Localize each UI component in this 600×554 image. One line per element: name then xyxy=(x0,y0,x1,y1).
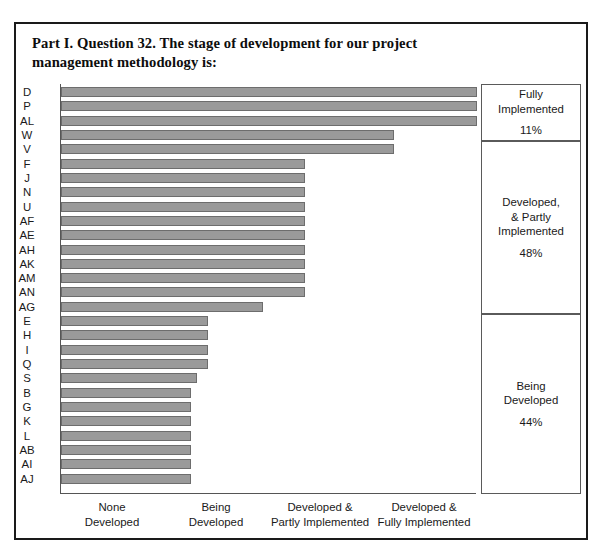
category-label-s: S xyxy=(0,372,54,384)
category-label-l: L xyxy=(0,430,54,442)
category-label-ah: AH xyxy=(0,244,54,256)
bar-d xyxy=(61,87,477,97)
legend-box-1: Fully Implemented11% xyxy=(481,84,581,141)
bar-fill xyxy=(61,87,477,97)
category-label-ab: AB xyxy=(0,444,54,456)
bar-l xyxy=(61,431,191,441)
bar-fill xyxy=(61,230,305,240)
bar-e xyxy=(61,316,208,326)
bar-ah xyxy=(61,245,305,255)
bar-am xyxy=(61,273,305,283)
legend-box-2: Developed, & Partly Implemented48% xyxy=(481,141,581,314)
category-label-an: AN xyxy=(0,286,54,298)
category-label-b: B xyxy=(0,387,54,399)
category-label-h: H xyxy=(0,329,54,341)
bar-al xyxy=(61,116,477,126)
bar-fill xyxy=(61,273,305,283)
category-label-i: I xyxy=(0,344,54,356)
bar-fill xyxy=(61,187,305,197)
bar-p xyxy=(61,101,477,111)
bar-fill xyxy=(61,459,191,469)
bar-g xyxy=(61,402,191,412)
bar-fill xyxy=(61,388,191,398)
bar-aj xyxy=(61,474,191,484)
bar-fill xyxy=(61,359,208,369)
category-label-u: U xyxy=(0,201,54,213)
category-label-ae: AE xyxy=(0,229,54,241)
category-label-ag: AG xyxy=(0,301,54,313)
legend-label: Fully Implemented xyxy=(498,87,564,116)
bar-fill xyxy=(61,173,305,183)
category-label-w: W xyxy=(0,129,54,141)
bar-n xyxy=(61,187,305,197)
bar-fill xyxy=(61,345,208,355)
bar-fill xyxy=(61,330,208,340)
bar-fill xyxy=(61,287,305,297)
category-label-v: V xyxy=(0,143,54,155)
bar-fill xyxy=(61,144,394,154)
legend-percent: 48% xyxy=(520,246,543,261)
category-label-af: AF xyxy=(0,215,54,227)
x-axis-tick-labels: None DevelopedBeing DevelopedDeveloped &… xyxy=(60,500,476,544)
legend-percent: 11% xyxy=(520,123,542,138)
category-label-j: J xyxy=(0,172,54,184)
bar-w xyxy=(61,130,394,140)
bar-ab xyxy=(61,445,191,455)
bar-fill xyxy=(61,402,191,412)
bar-fill xyxy=(61,416,191,426)
bar-j xyxy=(61,173,305,183)
category-label-g: G xyxy=(0,401,54,413)
bar-ai xyxy=(61,459,191,469)
category-label-am: AM xyxy=(0,272,54,284)
bar-fill xyxy=(61,116,477,126)
bar-fill xyxy=(61,259,305,269)
bar-ag xyxy=(61,302,263,312)
category-label-k: K xyxy=(0,415,54,427)
legend-label: Being Developed xyxy=(504,379,558,408)
legend-label: Developed, & Partly Implemented xyxy=(498,195,564,239)
bar-fill xyxy=(61,474,191,484)
bar-v xyxy=(61,144,394,154)
bar-fill xyxy=(61,373,197,383)
bar-ak xyxy=(61,259,305,269)
bar-k xyxy=(61,416,191,426)
bar-fill xyxy=(61,216,305,226)
bar-fill xyxy=(61,316,208,326)
category-label-f: F xyxy=(0,158,54,170)
bar-b xyxy=(61,388,191,398)
category-label-al: AL xyxy=(0,115,54,127)
bar-fill xyxy=(61,101,477,111)
page-title: Part I. Question 32. The stage of develo… xyxy=(32,34,502,71)
bar-fill xyxy=(61,202,305,212)
category-label-q: Q xyxy=(0,358,54,370)
bar-fill xyxy=(61,431,191,441)
legend-percent: 44% xyxy=(520,415,543,430)
bar-fill xyxy=(61,445,191,455)
legend-box-3: Being Developed44% xyxy=(481,314,581,494)
bar-f xyxy=(61,159,305,169)
bar-fill xyxy=(61,302,263,312)
category-label-ai: AI xyxy=(0,458,54,470)
x-tick-label-4: Developed & Fully Implemented xyxy=(344,500,504,529)
bar-ae xyxy=(61,230,305,240)
category-label-p: P xyxy=(0,100,54,112)
category-label-d: D xyxy=(0,86,54,98)
bar-h xyxy=(61,330,208,340)
bar-i xyxy=(61,345,208,355)
category-label-e: E xyxy=(0,315,54,327)
category-label-aj: AJ xyxy=(0,473,54,485)
bar-u xyxy=(61,202,305,212)
legend-panel: Fully Implemented11%Developed, & Partly … xyxy=(481,84,581,494)
bar-q xyxy=(61,359,208,369)
category-axis-labels: DPALWVFJNUAFAEAHAKAMANAGEHIQSBGKLABAIAJ xyxy=(0,84,54,494)
bar-fill xyxy=(61,130,394,140)
category-label-ak: AK xyxy=(0,258,54,270)
plot-area xyxy=(60,84,476,494)
bar-fill xyxy=(61,159,305,169)
bar-fill xyxy=(61,245,305,255)
bar-af xyxy=(61,216,305,226)
bar-an xyxy=(61,287,305,297)
category-label-n: N xyxy=(0,186,54,198)
bar-s xyxy=(61,373,197,383)
